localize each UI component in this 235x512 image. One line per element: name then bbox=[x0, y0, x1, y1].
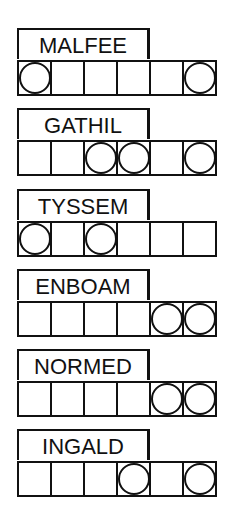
letter-cell[interactable] bbox=[151, 223, 184, 255]
letter-cell[interactable] bbox=[85, 383, 118, 415]
letter-cell[interactable] bbox=[151, 62, 184, 94]
answer-cells bbox=[17, 301, 217, 337]
letter-cell[interactable] bbox=[19, 223, 52, 255]
letter-cell[interactable] bbox=[52, 142, 85, 174]
letter-cell[interactable] bbox=[19, 303, 52, 335]
letter-cell[interactable] bbox=[118, 383, 151, 415]
letter-cell[interactable] bbox=[151, 303, 184, 335]
letter-cell[interactable] bbox=[118, 303, 151, 335]
letter-cell[interactable] bbox=[118, 62, 151, 94]
circle-marker-icon bbox=[19, 62, 51, 94]
scrambled-word: INGALD bbox=[17, 429, 150, 460]
letter-cell[interactable] bbox=[19, 62, 52, 94]
letter-cell[interactable] bbox=[184, 463, 217, 495]
letter-cell[interactable] bbox=[52, 463, 85, 495]
circle-marker-icon bbox=[184, 142, 216, 174]
letter-cell[interactable] bbox=[85, 463, 118, 495]
answer-cells bbox=[17, 381, 217, 417]
jumble-puzzle-2: GATHIL bbox=[17, 108, 217, 176]
circle-marker-icon bbox=[19, 223, 51, 255]
scrambled-word: GATHIL bbox=[17, 108, 150, 139]
letter-cell[interactable] bbox=[52, 223, 85, 255]
letter-cell[interactable] bbox=[118, 142, 151, 174]
letter-cell[interactable] bbox=[19, 383, 52, 415]
answer-cells bbox=[17, 221, 217, 257]
circle-marker-icon bbox=[118, 142, 150, 174]
letter-cell[interactable] bbox=[184, 303, 217, 335]
letter-cell[interactable] bbox=[118, 223, 151, 255]
circle-marker-icon bbox=[85, 142, 117, 174]
letter-cell[interactable] bbox=[85, 303, 118, 335]
letter-cell[interactable] bbox=[19, 142, 52, 174]
answer-cells bbox=[17, 140, 217, 176]
circle-marker-icon bbox=[151, 303, 183, 335]
jumble-puzzle-5: NORMED bbox=[17, 349, 217, 417]
letter-cell[interactable] bbox=[85, 223, 118, 255]
circle-marker-icon bbox=[151, 383, 183, 415]
letter-cell[interactable] bbox=[184, 383, 217, 415]
letter-cell[interactable] bbox=[52, 303, 85, 335]
scrambled-word: ENBOAM bbox=[17, 269, 150, 300]
letter-cell[interactable] bbox=[151, 142, 184, 174]
jumble-puzzle-1: MALFEE bbox=[17, 28, 217, 96]
letter-cell[interactable] bbox=[184, 62, 217, 94]
circle-marker-icon bbox=[184, 383, 216, 415]
letter-cell[interactable] bbox=[184, 142, 217, 174]
letter-cell[interactable] bbox=[85, 142, 118, 174]
answer-cells bbox=[17, 60, 217, 96]
circle-marker-icon bbox=[85, 223, 117, 255]
circle-marker-icon bbox=[184, 463, 216, 495]
letter-cell[interactable] bbox=[151, 463, 184, 495]
letter-cell[interactable] bbox=[118, 463, 151, 495]
jumble-puzzle-4: ENBOAM bbox=[17, 269, 217, 337]
letter-cell[interactable] bbox=[52, 62, 85, 94]
letter-cell[interactable] bbox=[151, 383, 184, 415]
circle-marker-icon bbox=[184, 62, 216, 94]
letter-cell[interactable] bbox=[85, 62, 118, 94]
scrambled-word: NORMED bbox=[17, 349, 150, 380]
letter-cell[interactable] bbox=[19, 463, 52, 495]
circle-marker-icon bbox=[184, 303, 216, 335]
answer-cells bbox=[17, 461, 217, 497]
circle-marker-icon bbox=[118, 463, 150, 495]
jumble-puzzle-6: INGALD bbox=[17, 429, 217, 497]
scrambled-word: MALFEE bbox=[17, 28, 150, 59]
scrambled-word: TYSSEM bbox=[17, 189, 150, 220]
letter-cell[interactable] bbox=[52, 383, 85, 415]
jumble-puzzle-3: TYSSEM bbox=[17, 189, 217, 257]
letter-cell[interactable] bbox=[184, 223, 217, 255]
